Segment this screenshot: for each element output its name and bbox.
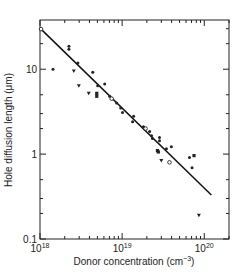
x-axis-label: Donor concentration (cm−3) [74,255,195,267]
x-axis-label-main: Donor concentration (cm [74,256,184,267]
data-point-dot [103,82,106,85]
axis-ticks [40,20,229,239]
y-tick-label: 10 [26,64,38,75]
data-point-dot [170,145,173,148]
data-point-square [192,154,195,157]
data-point-dot [67,48,70,51]
data-point-circle [168,161,172,165]
data-point-triangle [197,214,201,218]
x-tick-label: 1019 [113,242,132,254]
plot-frame [40,20,229,239]
data-point-dot [191,166,194,169]
data-point-triangle [87,92,91,96]
data-point-dot [188,156,191,159]
x-axis-label-sup: −3 [183,255,191,262]
y-tick-label: 0.1 [23,234,37,245]
x-tick-label: 1020 [195,242,214,254]
data-point-dot [148,130,151,133]
data-point-dot [132,115,135,118]
data-point-triangle [159,159,163,163]
data-point-dot [119,106,122,109]
fit-line [40,28,211,195]
tick-labels: 1018101910200.1110 [23,64,214,254]
data-point-dot [96,84,99,87]
x-axis-label-close: ) [191,256,194,267]
data-point-dot [151,137,154,140]
data-point-dot [131,120,134,123]
data-point-circle [144,127,148,131]
data-point-triangle [77,84,81,88]
chart: 1018101910200.1110 Hole diffusion length… [0,0,241,279]
data-points [39,27,201,217]
y-axis-label: Hole diffusion length (μm) [3,73,14,187]
data-point-dot [52,68,55,71]
data-point-dot [115,101,118,104]
data-point-dot [67,45,70,48]
data-point-square [95,95,98,98]
data-point-square [157,150,160,153]
data-point-dot [158,139,161,142]
data-point-square [95,92,98,95]
data-point-triangle [72,70,76,74]
data-point-dot [165,147,168,150]
data-point-dot [121,111,124,114]
data-point-circle [39,27,43,31]
data-point-dot [76,62,79,65]
data-point-dot [150,134,153,137]
data-point-circle [110,97,114,101]
y-tick-label: 1 [31,149,37,160]
data-point-dot [158,136,161,139]
data-point-dot [91,71,94,74]
